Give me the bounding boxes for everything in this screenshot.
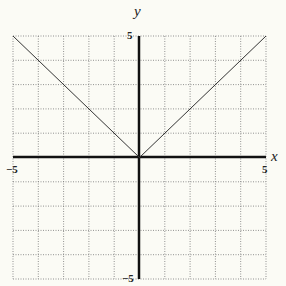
x-min-tick-label: −5 <box>6 163 18 175</box>
y-axis-label: y <box>134 3 141 20</box>
x-axis-label: x <box>271 148 278 165</box>
x-max-tick-label: 5 <box>262 163 268 175</box>
y-min-tick-label: −5 <box>122 272 134 284</box>
y-max-tick-label: 5 <box>127 29 133 41</box>
plot-area <box>0 0 286 286</box>
